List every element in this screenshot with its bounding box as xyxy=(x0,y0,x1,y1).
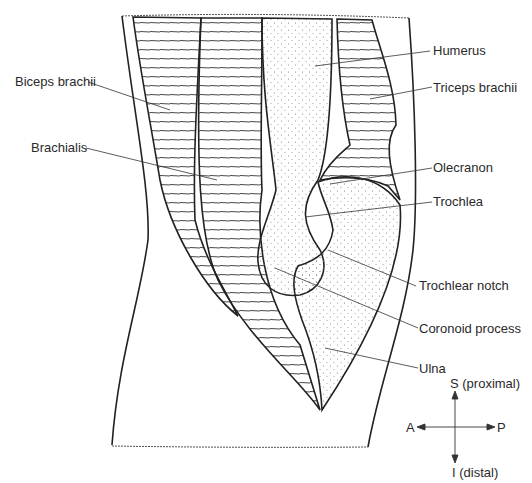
label-biceps-brachii: Biceps brachii xyxy=(15,75,96,88)
label-coronoid-process: Coronoid process xyxy=(419,322,521,335)
label-brachialis: Brachialis xyxy=(31,141,87,154)
label-trochlear-notch: Trochlear notch xyxy=(419,279,509,292)
label-humerus: Humerus xyxy=(433,44,486,57)
elbow-diagram xyxy=(0,0,532,483)
label-ulna: Ulna xyxy=(419,362,446,375)
compass-superior-label: S (proximal) xyxy=(450,377,520,390)
label-triceps-brachii: Triceps brachii xyxy=(433,81,517,94)
orientation-compass xyxy=(417,391,495,463)
compass-posterior-label: P xyxy=(497,421,506,434)
compass-anterior-label: A xyxy=(406,421,415,434)
label-trochlea: Trochlea xyxy=(433,195,483,208)
label-olecranon: Olecranon xyxy=(433,161,493,174)
compass-inferior-label: I (distal) xyxy=(452,466,498,479)
